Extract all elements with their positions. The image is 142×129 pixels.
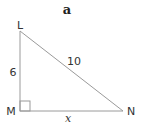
right-angle-marker [20, 101, 30, 111]
triangle-diagram: a L M N 6 10 x [0, 0, 142, 129]
side-label-MN: x [65, 112, 72, 125]
side-LN [20, 31, 123, 111]
vertex-label-N: N [127, 105, 135, 118]
triangle-LMN [20, 31, 123, 111]
vertex-label-L: L [17, 19, 24, 32]
side-label-LN: 10 [67, 55, 81, 68]
side-label-LM: 6 [10, 66, 17, 79]
vertex-label-M: M [6, 105, 16, 118]
figure-title: a [63, 2, 72, 17]
